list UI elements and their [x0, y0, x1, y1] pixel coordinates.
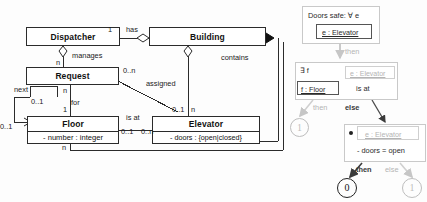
ocl-edge-label-then-1: then	[345, 47, 359, 56]
ocl-level2-quantifier: ∃ f	[300, 66, 309, 75]
ocl-edge-label-then-3: then	[356, 165, 372, 174]
ocl-node-level3[interactable]: e : Elevator - doors = open	[344, 124, 426, 162]
ocl-result-else[interactable]: 1	[402, 178, 422, 198]
ocl-level3-binding-box[interactable]: e : Elevator	[357, 126, 419, 140]
ocl-level2-binding-dim: e : Elevator	[350, 69, 385, 78]
ocl-edge-label-else-3: else	[385, 165, 399, 174]
ocl-edge-label-else-2: else	[345, 103, 359, 112]
ocl-level2-binding-active-box[interactable]: f : Floor	[297, 81, 339, 95]
ocl-level2-relation: is at	[356, 84, 370, 93]
ocl-root-label: Doors safe: ∀ e	[308, 11, 359, 20]
ocl-level2-binding-dim-box[interactable]: e : Elevator	[345, 66, 395, 79]
ocl-edge-label-then-2: then	[313, 103, 327, 112]
ocl-level3-condition: - doors = open	[357, 146, 405, 155]
ocl-root-binding-box[interactable]: e : Elevator	[316, 24, 372, 39]
ocl-level2-binding-active: f : Floor	[301, 85, 325, 94]
ocl-node-root[interactable]: Doors safe: ∀ e e : Elevator	[302, 6, 380, 44]
ocl-root-binding: e : Elevator	[322, 28, 358, 37]
ocl-result-then[interactable]: 0	[337, 178, 357, 198]
ocl-node-level2[interactable]: ∃ f e : Elevator f : Floor is at	[295, 62, 398, 100]
ocl-level3-binding-dim: e : Elevator	[365, 130, 401, 139]
diagram-canvas: Dispatcher Building Request Floor - numb…	[0, 0, 427, 202]
ocl-level3-bullet-icon	[349, 131, 353, 135]
ocl-result-left[interactable]: 1	[290, 118, 309, 137]
